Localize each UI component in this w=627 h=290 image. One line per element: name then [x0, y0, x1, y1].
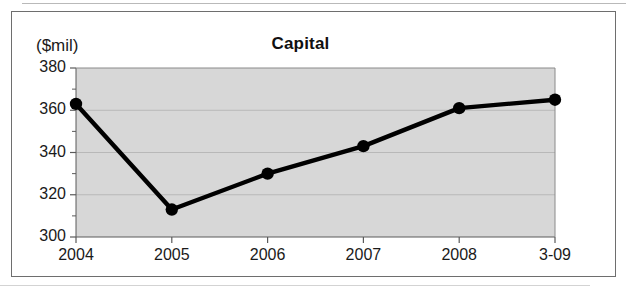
y-axis-tick-label: 340 — [20, 143, 66, 161]
y-axis-major-ticks — [70, 68, 76, 237]
scan-artifact-line-bottom — [0, 285, 590, 286]
x-axis-ticks — [76, 237, 555, 243]
x-axis-tick-label: 3-09 — [520, 246, 590, 264]
figure-page: ($mil) Capital 300320340360380 200420052… — [0, 0, 627, 290]
y-axis-tick-label: 300 — [20, 227, 66, 245]
y-axis-tick-label: 360 — [20, 100, 66, 118]
x-axis-tick-label: 2007 — [328, 246, 398, 264]
x-axis-tick-label: 2005 — [137, 246, 207, 264]
x-axis-tick-label: 2008 — [424, 246, 494, 264]
data-point-marker — [261, 167, 273, 179]
data-point-marker — [357, 140, 369, 152]
scan-artifact-line-top — [22, 3, 626, 4]
data-point-marker — [549, 93, 561, 105]
y-axis-tick-label: 320 — [20, 185, 66, 203]
chart-frame: ($mil) Capital 300320340360380 200420052… — [11, 11, 616, 277]
x-axis-tick-label: 2006 — [233, 246, 303, 264]
data-point-marker — [166, 203, 178, 215]
y-axis-tick-label: 380 — [20, 58, 66, 76]
data-point-marker — [70, 98, 82, 110]
x-axis-tick-label: 2004 — [41, 246, 111, 264]
data-point-marker — [453, 102, 465, 114]
line-chart-plot — [12, 12, 617, 278]
